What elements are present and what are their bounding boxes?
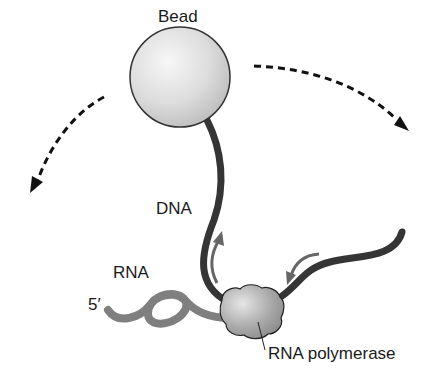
dna-strand bbox=[204, 120, 402, 302]
rna-label: RNA bbox=[113, 264, 149, 281]
rotation-arrow-left bbox=[30, 97, 104, 193]
bead-label: Bead bbox=[158, 8, 198, 25]
rna-polymerase bbox=[220, 285, 284, 339]
diagram-canvas bbox=[0, 0, 438, 382]
rna-polymerase-label: RNA polymerase bbox=[268, 345, 396, 362]
rotation-arrow-right bbox=[254, 66, 409, 131]
rna-strand bbox=[108, 294, 230, 324]
bead bbox=[130, 27, 230, 127]
dna-label: DNA bbox=[156, 200, 192, 217]
five-prime-label: 5′ bbox=[88, 296, 101, 313]
